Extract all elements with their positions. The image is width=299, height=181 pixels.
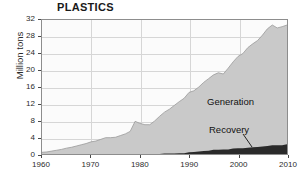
x-tick-label: 1960: [24, 160, 58, 169]
x-tick-label: 1990: [172, 160, 206, 169]
x-tick-mark: [90, 155, 91, 158]
generation-area-path: [42, 25, 287, 154]
x-tick-mark: [239, 155, 240, 158]
x-tick-mark: [189, 155, 190, 158]
y-tick-label: 4: [15, 134, 35, 142]
y-tick-label: 8: [15, 117, 35, 125]
chart-title: PLASTICS: [57, 1, 114, 13]
series-label-generation: Generation: [207, 96, 254, 107]
x-tick-mark: [288, 155, 289, 158]
footer-strip: [0, 173, 299, 181]
plastics-area-chart-figure: PLASTICS Million tons 048121620242832 19…: [0, 0, 299, 181]
y-tick-label: 0: [15, 151, 35, 159]
y-tick-label: 24: [15, 49, 35, 57]
x-tick-mark: [140, 155, 141, 158]
x-tick-label: 1970: [73, 160, 107, 169]
series-label-recovery: Recovery: [209, 124, 249, 135]
y-tick-label: 16: [15, 83, 35, 91]
y-tick-label: 12: [15, 100, 35, 108]
area-series-svg: [42, 20, 287, 154]
y-tick-label: 32: [15, 15, 35, 23]
x-tick-label: 2000: [222, 160, 256, 169]
x-tick-label: 1980: [123, 160, 157, 169]
plot-area: [41, 19, 288, 155]
y-tick-label: 20: [15, 66, 35, 74]
y-tick-label: 28: [15, 32, 35, 40]
x-tick-label: 2010: [271, 160, 299, 169]
x-tick-mark: [41, 155, 42, 158]
